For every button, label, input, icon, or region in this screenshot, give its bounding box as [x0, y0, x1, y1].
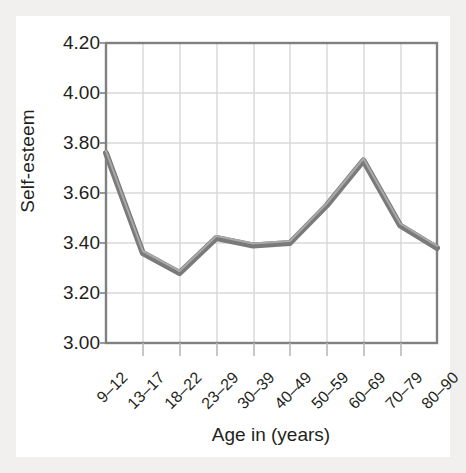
x-axis-tick-labels: 9–12 13–17 18–22 23–29 30–39 40–49 50–59…	[0, 0, 466, 473]
chart-page: Self-esteem 4.20 4.00 3.80 3.60 3.40 3.2…	[0, 0, 466, 473]
line-chart-figure: Self-esteem 4.20 4.00 3.80 3.60 3.40 3.2…	[0, 0, 466, 473]
x-axis-title: Age in (years)	[105, 424, 437, 446]
